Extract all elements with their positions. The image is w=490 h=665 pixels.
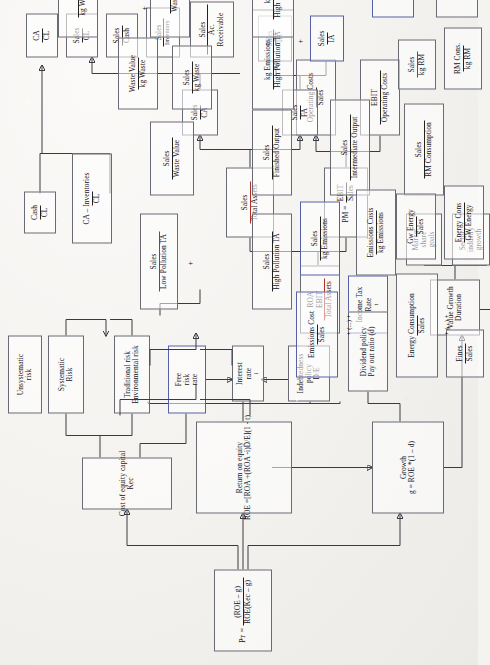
operator-plus-pollution: + — [186, 260, 195, 265]
encs-num: Energy Consumption — [408, 291, 416, 360]
node-kg-waste-high-pollution: kg Waste High Pollution TA — [252, 0, 294, 37]
node-sales-kg-waste-incineration: Sales kg Waste to Incineration — [58, 0, 98, 37]
cainv-num: CA – Inventories — [83, 170, 91, 226]
kwhp-den: High Pollution TA — [273, 0, 282, 19]
sfin-den: Finished Output — [272, 125, 281, 178]
ecs-num: Emissions Cost — [308, 308, 316, 359]
kehp-den: High Pollution TA — [273, 29, 282, 89]
rmc-den: kg RM — [463, 45, 472, 70]
ecke-num: Emissions Costs — [367, 205, 375, 259]
srm-num: Sales — [415, 139, 423, 159]
skrm-den: kg RM — [417, 51, 426, 76]
ske-den: kg Emissions — [320, 216, 329, 261]
ecge-num: Energy Cons — [455, 200, 463, 243]
node-ca-minus-inventories-cl: CA – Inventories CL — [72, 153, 112, 243]
node-sales-high-pollution-ta: Sales High Pollution TA — [252, 213, 292, 309]
ske-num: Sales — [311, 228, 319, 248]
sint-num: Sales — [341, 137, 349, 157]
fs-num: Fines — [456, 343, 464, 364]
node-energy-consumption-sales: Energy Consumption Sales — [396, 273, 438, 377]
shighpol-num: Sales — [263, 251, 271, 271]
rmc-num: RM Cons. — [454, 40, 462, 75]
node-fines-sales: Fines Sales — [446, 329, 484, 377]
sint-den: Intermediate Output — [350, 114, 359, 180]
node-energy-cons-gw-energy: Energy Cons GW Energy — [444, 185, 484, 259]
wvkw-num: Waste Value — [129, 52, 137, 94]
fs-den: Sales — [465, 343, 474, 363]
encs-den: Sales — [417, 315, 426, 335]
node-sales-low-pollution-ta: Sales Low Pollution TA — [140, 213, 178, 309]
skwi-den: kg Waste to Incineration — [78, 0, 87, 17]
slowpol-den: Low Pollution TA — [159, 231, 168, 290]
operator-plus-assets: + — [296, 38, 305, 43]
node-waste-value-kg-waste: Waste Value kg Waste — [118, 37, 158, 109]
ges-num: Gw Energy — [407, 207, 415, 246]
node-sales-rm-consumption: Sales RM Consumption — [404, 103, 444, 195]
operator-plus-liquidity: + — [140, 5, 149, 10]
swv-den: Waste Value — [172, 137, 181, 179]
operator-plus-ellipsis-emissions: + (...) + — [345, 314, 353, 335]
node-sales-waste-landfill: Sales Waste to Landfill — [150, 0, 190, 37]
node-sales-kg-emissions: Sales kg Emissions — [300, 201, 340, 275]
node-sales-kg-waste: Sales kg Waste — [172, 45, 212, 109]
node-sales-kg-renewable-rm: Sales kg Renewable RM — [436, 0, 478, 17]
node-emissions-costs-kg-emissions: Emissions Costs kg Emissions — [356, 189, 396, 275]
node-emissions-cost-sales: Emissions Cost Sales — [296, 291, 338, 377]
node-gw-energy-sales: Gw Energy Sales — [396, 193, 436, 259]
cainv-den: CL — [92, 191, 101, 205]
skrm-num: Sales — [408, 54, 416, 74]
sfin-num: Sales — [263, 142, 271, 162]
skw-den: kg Waste — [192, 61, 201, 93]
ecke-den: kg Emissions — [376, 210, 385, 255]
ges-den: Sales — [416, 216, 425, 236]
node-sales-kg-rm: Sales kg RM — [398, 39, 436, 89]
cashcl-num: Cash — [31, 202, 39, 221]
node-cash-cl-box: Cash CL — [24, 191, 56, 233]
wvkw-den: kg Waste — [138, 57, 147, 89]
cashcl-den: CL — [40, 205, 49, 219]
ecs-den: Sales — [317, 324, 326, 344]
node-sales-waste-value: Sales Waste Value — [150, 121, 194, 195]
kehp-num: kg Emissions — [264, 37, 272, 82]
srm-den: RM Consumption — [424, 120, 433, 179]
skw-num: Sales — [183, 67, 191, 87]
node-sales-finished-output: Sales Finished Output — [252, 109, 292, 195]
node-sales-kg-non-renewable-rm: Sales kg Non Renewable RM — [372, 0, 414, 17]
swl-den: Waste to Landfill — [170, 0, 179, 13]
operator-plus-ellipsis-energy: + (...) + — [443, 314, 451, 335]
node-sales-intermediate-output: Sales Intermediate Output — [330, 99, 370, 195]
node-rm-cons-kg-rm: RM Cons. kg RM — [444, 27, 482, 89]
shighpol-den: High Pollution TA — [272, 231, 281, 291]
kwhp-num: kg Waste — [264, 0, 272, 5]
slowpol-num: Sales — [150, 251, 158, 271]
ecge-den: GW Energy — [464, 202, 473, 242]
swv-num: Sales — [163, 148, 171, 168]
